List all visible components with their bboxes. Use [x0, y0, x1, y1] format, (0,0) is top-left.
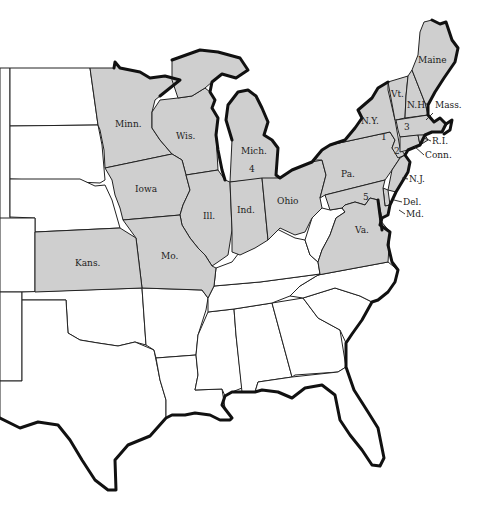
label-indiana: Ind.: [237, 205, 255, 215]
label-maryland: Md.: [406, 209, 424, 219]
label-virginia: Va.: [354, 225, 369, 235]
state-north-dakota: [10, 68, 98, 126]
civil-war-union-states-map: Maine Vt. N.H. Mass. R.I. Conn. N.Y. N.J…: [0, 0, 482, 516]
state-florida: [255, 367, 384, 466]
leader-maryland: [399, 210, 405, 214]
label-connecticut: Conn.: [425, 150, 452, 160]
state-colorado: [0, 218, 35, 292]
label-ohio: Ohio: [277, 196, 298, 206]
label-illinois: Ill.: [203, 211, 215, 221]
marker-5: 5: [363, 192, 369, 202]
leader-connecticut: [414, 146, 424, 155]
marker-2: 2: [394, 146, 400, 156]
marker-3: 3: [404, 122, 410, 132]
label-maine: Maine: [418, 55, 447, 65]
label-minnesota: Minn.: [115, 119, 142, 129]
label-rhode-island: R.I.: [432, 136, 448, 146]
state-new-mexico: [0, 292, 22, 381]
label-michigan: Mich.: [241, 146, 267, 156]
label-pennsylvania: Pa.: [341, 169, 355, 179]
label-iowa: Iowa: [135, 184, 158, 194]
marker-4: 4: [249, 164, 255, 174]
label-kansas: Kans.: [75, 258, 101, 268]
marker-1: 1: [381, 132, 387, 142]
label-wisconsin: Wis.: [176, 131, 196, 141]
leader-delaware: [394, 200, 402, 202]
state-indiana: [230, 178, 268, 255]
label-massachusetts: Mass.: [435, 100, 462, 110]
label-new-hampshire: N.H.: [407, 100, 428, 110]
label-new-york: N.Y.: [361, 116, 379, 126]
label-new-jersey: N.J.: [409, 174, 425, 184]
label-vermont: Vt.: [390, 89, 404, 99]
label-delaware: Del.: [403, 197, 421, 207]
label-missouri: Mo.: [161, 251, 178, 261]
state-south-dakota: [10, 125, 105, 183]
